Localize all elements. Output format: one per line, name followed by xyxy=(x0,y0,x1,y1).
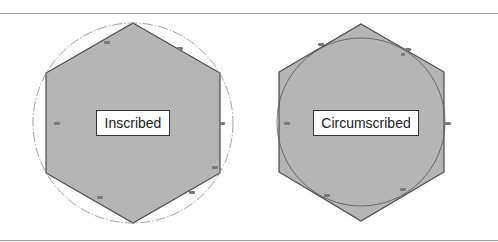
marker-icon xyxy=(324,194,330,197)
marker-icon xyxy=(177,47,183,50)
marker-icon xyxy=(104,41,110,44)
hexagon-diagram xyxy=(0,0,498,242)
marker-icon xyxy=(97,196,103,199)
marker-icon xyxy=(54,122,60,125)
marker-icon xyxy=(219,122,225,125)
inscribed-label: Inscribed xyxy=(96,110,170,136)
marker-icon xyxy=(400,188,406,191)
marker-icon xyxy=(405,48,411,51)
marker-icon xyxy=(189,191,195,194)
marker-icon xyxy=(212,166,218,169)
marker-icon xyxy=(318,43,324,46)
marker-icon xyxy=(401,53,405,56)
marker-icon xyxy=(445,122,451,125)
circumscribed-label: Circumscribed xyxy=(313,110,419,136)
marker-icon xyxy=(284,122,290,125)
